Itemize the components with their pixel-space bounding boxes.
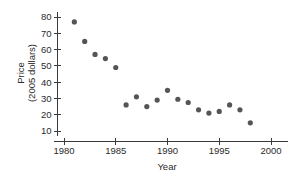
scatter-plot-figure: 1020304050607080 19801985199019952000 Ye…: [0, 0, 297, 178]
data-point: [165, 88, 170, 93]
y-tick-label-60: 60: [41, 44, 52, 55]
data-point: [196, 107, 201, 112]
y-tick-label-50: 50: [41, 60, 52, 71]
y-axis: [54, 12, 61, 136]
y-tick-label-10: 10: [41, 125, 52, 136]
y-tick-label-30: 30: [41, 93, 52, 104]
data-point: [72, 19, 77, 24]
y-tick-label-80: 80: [41, 11, 52, 22]
x-tick-labels: 19801985199019952000: [53, 145, 281, 156]
data-point: [206, 110, 211, 115]
y-tick-labels: 1020304050607080: [41, 11, 52, 136]
axis-titles: Year Price (2005 dollars): [15, 44, 177, 172]
x-axis-title: Year: [157, 161, 176, 172]
data-point: [144, 104, 149, 109]
x-tick-label-1985: 1985: [105, 145, 126, 156]
data-point: [124, 102, 129, 107]
x-tick-label-2000: 2000: [260, 145, 281, 156]
chart-canvas: 1020304050607080 19801985199019952000 Ye…: [0, 0, 297, 178]
y-axis-title-line2: (2005 dollars): [26, 44, 37, 102]
x-tick-label-1990: 1990: [157, 145, 178, 156]
x-tick-label-1995: 1995: [209, 145, 230, 156]
y-tick-label-70: 70: [41, 28, 52, 39]
data-point: [92, 52, 97, 57]
data-point: [113, 65, 118, 70]
data-point: [134, 94, 139, 99]
y-tick-label-20: 20: [41, 109, 52, 120]
data-point: [175, 97, 180, 102]
x-axis: [54, 138, 288, 145]
data-point: [227, 102, 232, 107]
x-tick-label-1980: 1980: [53, 145, 74, 156]
data-point: [248, 120, 253, 125]
data-point: [82, 39, 87, 44]
y-axis-title-line1: Price: [15, 62, 26, 84]
data-point: [237, 107, 242, 112]
data-point: [186, 100, 191, 105]
data-point: [155, 97, 160, 102]
data-point: [217, 109, 222, 114]
y-tick-label-40: 40: [41, 77, 52, 88]
data-point: [103, 56, 108, 61]
data-point-series: [72, 19, 253, 125]
